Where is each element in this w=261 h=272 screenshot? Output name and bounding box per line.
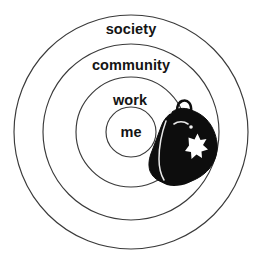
bag-stud-left [168, 110, 171, 113]
diagram-canvas [0, 0, 261, 272]
concentric-rings-diagram: society community work me [0, 0, 261, 272]
bag-stud-right [189, 125, 193, 129]
ring-me [106, 107, 156, 157]
